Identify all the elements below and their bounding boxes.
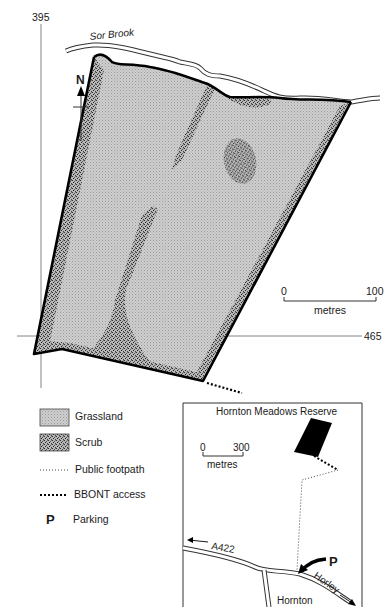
scale-end: 100 (366, 285, 384, 297)
inset-parking-label: P (329, 554, 338, 569)
grassland-swatch (40, 409, 69, 426)
legend: P (40, 409, 69, 527)
legend-label-grassland: Grassland (75, 410, 123, 422)
legend-label-bbont: BBONT access (74, 488, 146, 500)
scale-unit: metres (314, 304, 346, 316)
northing-label: 465 (364, 330, 382, 342)
bbont-access-path (207, 383, 242, 393)
reserve-map: 395 465 Sor Brook (0, 0, 390, 607)
scrub-swatch (40, 434, 69, 451)
grassland-area (0, 0, 390, 400)
legend-label-footpath: Public footpath (75, 463, 144, 475)
inset-map (183, 403, 362, 607)
inset-scale-unit: metres (207, 459, 238, 470)
legend-label-scrub: Scrub (75, 436, 102, 448)
scale-start: 0 (281, 285, 287, 297)
inset-scale-end: 300 (233, 442, 250, 453)
inset-scale-start: 0 (200, 442, 206, 453)
inset-title: Hornton Meadows Reserve (216, 406, 338, 417)
river-label: Sor Brook (89, 26, 135, 42)
inset-reserve-shape (294, 418, 332, 457)
scale-bar (284, 297, 376, 301)
easting-label: 395 (32, 11, 50, 23)
parking-symbol: P (46, 512, 55, 527)
north-label: N (76, 73, 85, 87)
reserve-area (0, 0, 390, 400)
inset-bbont-access (314, 456, 338, 470)
legend-label-parking: Parking (73, 513, 109, 525)
hornton-label: Hornton (277, 595, 313, 606)
